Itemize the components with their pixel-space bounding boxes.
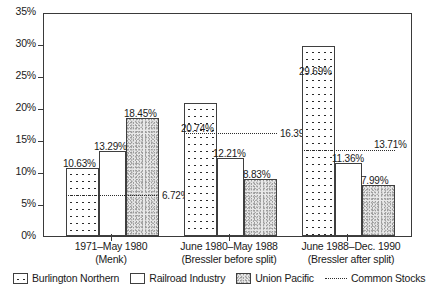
- legend-label: Union Pacific: [255, 272, 314, 284]
- x-axis-category-label: June 1980–May 1988: [160, 240, 298, 253]
- legend-label: Common Stocks: [351, 272, 425, 284]
- y-axis-tick-label: 0%: [21, 230, 36, 241]
- bar-value-label: 11.36%: [332, 153, 364, 164]
- bar-value-label: 8.83%: [243, 169, 270, 180]
- x-axis-category-label: 1971–May 1980: [46, 240, 176, 253]
- legend-item-burlington-northern: Burlington Northern: [13, 272, 119, 284]
- bar-value-label: 29.69%: [299, 66, 332, 77]
- x-axis-category-label: June 1988–Dec. 1990: [285, 240, 417, 253]
- legend-swatch-dotted-line-icon: [325, 278, 347, 279]
- bar-union-pacific-period-2: [244, 179, 277, 236]
- bar-value-label: 7.99%: [361, 175, 388, 186]
- y-axis-tick-label: 5%: [21, 198, 36, 209]
- bar-value-label: 13.29%: [94, 141, 127, 152]
- legend-item-common-stocks: Common Stocks: [325, 272, 425, 284]
- y-axis-tick-label: 25%: [16, 70, 36, 81]
- y-axis-tick-label: 15%: [16, 134, 36, 145]
- x-axis-category-2: June 1980–May 1988 (Bressler before spli…: [160, 240, 298, 265]
- legend-item-railroad-industry: Railroad Industry: [130, 272, 225, 284]
- legend-label: Burlington Northern: [32, 272, 119, 284]
- y-axis-tick-label: 35%: [16, 6, 36, 17]
- legend-swatch-dots-icon: [13, 273, 28, 284]
- x-axis-category-3: June 1988–Dec. 1990 (Bressler after spli…: [285, 240, 417, 265]
- bar-railroad-industry-period-1: [99, 151, 126, 236]
- chart-legend: Burlington Northern Railroad Industry Un…: [13, 272, 434, 284]
- bar-value-label: 12.21%: [213, 148, 246, 159]
- legend-swatch-stipple-icon: [236, 273, 251, 284]
- bar-railroad-industry-period-2: [217, 158, 244, 236]
- plot-area: 10.63% 13.29% 18.45% 6.72% 20.74% 12.21%…: [43, 13, 412, 237]
- bar-chart: 0% 5% 10% 15% 20% 25% 30% 35%: [0, 0, 434, 298]
- y-axis-tick-label: 30%: [16, 38, 36, 49]
- y-axis-tick-label: 20%: [16, 102, 36, 113]
- legend-swatch-blank-icon: [130, 273, 145, 284]
- common-stocks-line-period-2: [184, 133, 277, 134]
- bar-burlington-northern-period-1: [66, 168, 99, 236]
- bar-union-pacific-period-1: [126, 118, 159, 236]
- legend-label: Railroad Industry: [149, 272, 225, 284]
- bar-value-label: 18.45%: [124, 108, 157, 119]
- common-stocks-line-period-1: [66, 195, 159, 196]
- bar-value-label: 10.63%: [63, 158, 96, 169]
- common-stocks-line-period-3: [302, 150, 395, 151]
- x-axis-category-1: 1971–May 1980 (Menk): [46, 240, 176, 265]
- x-axis-category-sublabel: (Bressler before split): [160, 253, 298, 266]
- y-axis-tick-label: 10%: [16, 166, 36, 177]
- bar-railroad-industry-period-3: [335, 163, 362, 236]
- common-stocks-value-label: 13.71%: [374, 139, 407, 150]
- bar-union-pacific-period-3: [362, 185, 395, 236]
- x-axis-category-sublabel: (Menk): [46, 253, 176, 266]
- x-axis-category-sublabel: (Bressler after split): [285, 253, 417, 266]
- legend-item-union-pacific: Union Pacific: [236, 272, 314, 284]
